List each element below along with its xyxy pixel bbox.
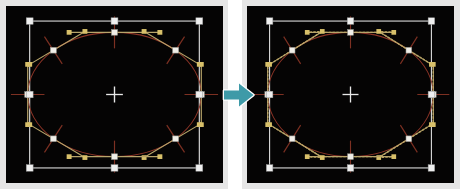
- selection-handle[interactable]: [347, 165, 354, 172]
- selection-handle[interactable]: [266, 18, 273, 25]
- transform-arrow: [222, 78, 256, 112]
- selection-handle[interactable]: [26, 91, 33, 98]
- selection-handle[interactable]: [428, 165, 435, 172]
- handle-in[interactable]: [376, 29, 381, 34]
- handle-in[interactable]: [265, 122, 270, 127]
- handle-in[interactable]: [27, 62, 32, 67]
- selection-handle[interactable]: [26, 18, 33, 25]
- selection-handle[interactable]: [266, 165, 273, 172]
- anchor-point[interactable]: [173, 136, 179, 142]
- selection-handle[interactable]: [26, 165, 33, 172]
- anchor-point[interactable]: [112, 30, 118, 36]
- anchor-point[interactable]: [289, 47, 295, 53]
- handle-out[interactable]: [376, 155, 381, 160]
- handle-out[interactable]: [157, 30, 162, 35]
- anchor-point[interactable]: [406, 47, 412, 53]
- selection-handle[interactable]: [266, 91, 273, 98]
- anchor-point[interactable]: [50, 136, 56, 142]
- handle-in[interactable]: [157, 154, 162, 159]
- handle-in[interactable]: [431, 62, 436, 67]
- anchor-point[interactable]: [348, 154, 354, 160]
- handle-out[interactable]: [305, 154, 310, 159]
- selection-handle[interactable]: [428, 18, 435, 25]
- handle-in[interactable]: [67, 30, 72, 35]
- handle-in[interactable]: [391, 154, 396, 159]
- handle-out[interactable]: [142, 155, 147, 160]
- vector-canvas-after[interactable]: [241, 0, 460, 189]
- handle-in[interactable]: [320, 155, 325, 160]
- selection-handle[interactable]: [196, 165, 203, 172]
- handle-out[interactable]: [82, 29, 87, 34]
- handle-in[interactable]: [142, 29, 147, 34]
- handle-out[interactable]: [391, 30, 396, 35]
- handle-in[interactable]: [429, 122, 434, 127]
- anchor-point[interactable]: [348, 30, 354, 36]
- selection-handle[interactable]: [111, 165, 118, 172]
- canvas-panel-before[interactable]: [0, 0, 229, 189]
- handle-in[interactable]: [267, 62, 272, 67]
- anchor-point[interactable]: [50, 47, 56, 53]
- selection-handle[interactable]: [111, 18, 118, 25]
- anchor-point[interactable]: [112, 154, 118, 160]
- figure-stage: [0, 0, 460, 189]
- handle-in[interactable]: [197, 122, 202, 127]
- anchor-point[interactable]: [406, 136, 412, 142]
- handle-in[interactable]: [199, 62, 204, 67]
- selection-handle[interactable]: [428, 91, 435, 98]
- handle-out[interactable]: [67, 154, 72, 159]
- selection-handle[interactable]: [196, 18, 203, 25]
- arrow-right-icon: [222, 78, 256, 112]
- anchor-point[interactable]: [173, 47, 179, 53]
- canvas-panel-after[interactable]: [241, 0, 460, 189]
- selection-handle[interactable]: [347, 18, 354, 25]
- handle-in[interactable]: [82, 155, 87, 160]
- handle-in[interactable]: [305, 30, 310, 35]
- handle-out[interactable]: [320, 29, 325, 34]
- handle-in[interactable]: [25, 122, 30, 127]
- anchor-point[interactable]: [289, 136, 295, 142]
- vector-canvas-before[interactable]: [0, 0, 229, 189]
- selection-handle[interactable]: [196, 91, 203, 98]
